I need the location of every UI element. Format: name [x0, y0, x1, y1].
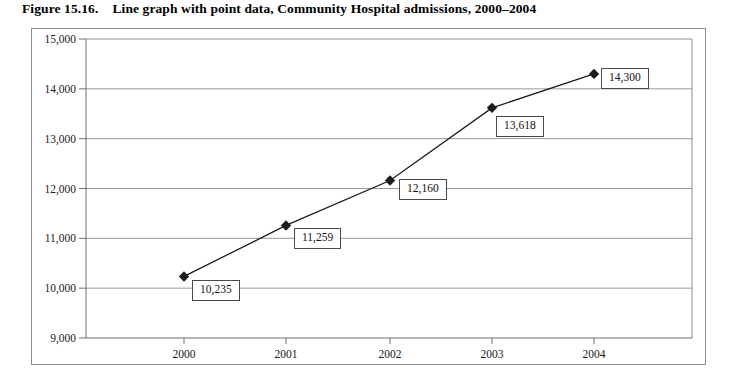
y-axis-tick-label: 12,000 — [28, 183, 76, 195]
figure-caption-text: Line graph with point data, Community Ho… — [112, 1, 536, 16]
x-axis-tick-label: 2002 — [360, 348, 420, 360]
y-axis-tick-label: 11,000 — [28, 232, 76, 244]
figure-caption: Figure 15.16.Line graph with point data,… — [22, 1, 536, 17]
data-point-value-label: 14,300 — [601, 68, 649, 89]
data-point-value-label: 12,160 — [399, 179, 447, 200]
figure-number: Figure 15.16. — [22, 1, 98, 16]
x-axis-tick-label: 2000 — [154, 348, 214, 360]
y-axis-tick-label: 13,000 — [28, 133, 76, 145]
y-axis-tick-label: 14,000 — [28, 83, 76, 95]
x-axis-tick-label: 2001 — [256, 348, 316, 360]
data-point-value-label: 10,235 — [192, 280, 240, 301]
y-axis-tick-label: 10,000 — [28, 282, 76, 294]
data-point-value-label: 13,618 — [496, 116, 544, 137]
y-axis-tick-label: 9,000 — [28, 332, 76, 344]
data-point-value-label: 11,259 — [294, 228, 341, 249]
x-axis-tick-label: 2004 — [564, 348, 624, 360]
y-axis-tick-label: 15,000 — [28, 33, 76, 45]
x-axis-tick-label: 2003 — [462, 348, 522, 360]
